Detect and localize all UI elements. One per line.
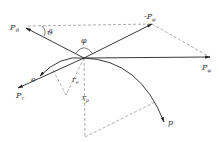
theta-angle-arc — [42, 26, 45, 36]
label-p-phi: Pφ — [201, 63, 211, 74]
label-r-e: re — [72, 75, 79, 85]
label-phi-angle: φ — [81, 36, 87, 45]
label-e: e — [31, 75, 36, 84]
label-p-theta: Pϑ — [9, 23, 19, 33]
label-neg-p-phi: -Pφ — [144, 12, 156, 23]
label-theta-angle: ϑ — [47, 28, 53, 37]
e-curve — [40, 58, 84, 76]
p-phi-vector — [84, 57, 210, 58]
phi-angle-arc — [76, 48, 93, 54]
p-theta-vector — [26, 28, 84, 58]
dashed-radius-to-curve — [85, 102, 155, 137]
label-p: p — [168, 118, 173, 127]
dashed-horizontal-line — [28, 24, 152, 26]
p-curve — [84, 58, 164, 122]
force-vector-diagram: Pϑ -Pφ Pφ Pr e re rp p ϑ φ — [0, 0, 219, 142]
neg-p-phi-vector — [84, 24, 152, 58]
dashed-parallelogram-line — [152, 24, 210, 57]
label-r-p: rp — [82, 93, 90, 104]
label-p-r: Pr — [15, 91, 24, 101]
